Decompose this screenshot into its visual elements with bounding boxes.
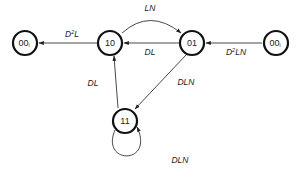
edge-label-dln-loop: DLN xyxy=(171,155,189,165)
edge-label-dl-diag: DL xyxy=(88,78,99,88)
node-10: 10 xyxy=(98,31,122,55)
svg-text:00i: 00i xyxy=(269,38,280,48)
edge-label-dln-diag: DLN xyxy=(177,77,195,87)
svg-text:10: 10 xyxy=(105,38,115,48)
edge-label-d2ln: D2LN xyxy=(226,47,247,57)
edge-11-to-10 xyxy=(114,56,118,108)
svg-text:01: 01 xyxy=(187,38,197,48)
edge-label-dl-top: DL xyxy=(145,47,156,57)
svg-text:00i: 00i xyxy=(18,38,29,48)
edge-label-d2l: D2L xyxy=(65,29,79,39)
edge-10-to-01-curved xyxy=(122,21,181,34)
node-00-left: 00i xyxy=(13,31,37,55)
svg-text:11: 11 xyxy=(120,116,129,126)
state-diagram: 00i 10 01 00i 11 D2L LN DL D2LN DLN DL D… xyxy=(0,0,300,172)
node-11: 11 xyxy=(113,109,137,133)
node-01: 01 xyxy=(180,31,204,55)
edge-label-ln: LN xyxy=(145,3,157,13)
node-00-right: 00i xyxy=(264,31,288,55)
